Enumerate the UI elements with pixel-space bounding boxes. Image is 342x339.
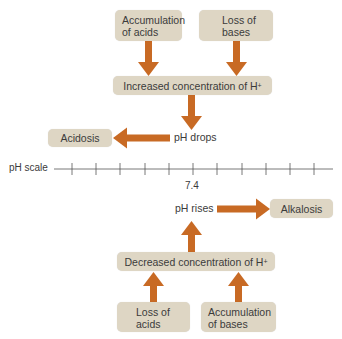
- ph-value-7-4: 7.4: [185, 180, 199, 191]
- box-text: of acids: [122, 26, 175, 38]
- cause-loss-of-acids: Loss of acids: [117, 302, 190, 332]
- box-text: of bases: [208, 318, 269, 330]
- ph-scale-line: [54, 163, 333, 175]
- cause-loss-of-bases: Loss of bases: [199, 10, 273, 41]
- acidosis-box: Acidosis: [48, 129, 112, 147]
- box-text: Acidosis: [60, 132, 99, 144]
- box-text: acids: [136, 318, 183, 330]
- diagram-arrows: [0, 0, 342, 339]
- box-text: Loss of: [222, 14, 266, 26]
- superscript-plus: +: [263, 256, 267, 268]
- box-text: bases: [222, 26, 266, 38]
- ph-drops-label: pH drops: [174, 131, 217, 143]
- decreased-h-concentration-box: Decreased concentration of H+: [117, 252, 275, 271]
- arrow-left-icon: [113, 128, 170, 149]
- increased-h-concentration-box: Increased concentration of H+: [113, 76, 272, 95]
- superscript-plus: +: [258, 80, 262, 92]
- arrow-down-icon: [138, 41, 159, 76]
- box-text: Alkalosis: [281, 203, 322, 215]
- arrow-up-icon: [143, 272, 164, 303]
- arrow-down-icon: [181, 95, 202, 130]
- alkalosis-box: Alkalosis: [270, 199, 333, 218]
- arrow-right-icon: [217, 199, 270, 220]
- box-text: Loss of: [136, 306, 183, 318]
- box-text: Accumulation: [208, 306, 269, 318]
- arrow-up-icon: [228, 272, 249, 303]
- cause-accumulation-of-acids: Accumulation of acids: [115, 10, 182, 41]
- ph-scale-label: pH scale: [9, 162, 48, 173]
- box-text: Increased concentration of H: [123, 80, 257, 92]
- ph-rises-label: pH rises: [175, 202, 214, 214]
- cause-accumulation-of-bases: Accumulation of bases: [201, 302, 276, 332]
- box-text: Accumulation: [122, 14, 175, 26]
- arrow-down-icon: [226, 41, 247, 76]
- arrow-up-icon: [181, 221, 202, 252]
- box-text: Decreased concentration of H: [124, 256, 263, 268]
